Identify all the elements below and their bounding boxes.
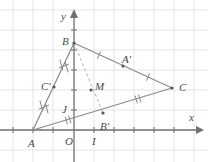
point-label-b-prime: B' <box>100 121 109 132</box>
point-label-c: C <box>179 82 186 93</box>
median-line-bb' <box>74 43 103 113</box>
x-axis-arrowhead <box>196 126 204 134</box>
geometry-figure: ABCA'B'C'M x y O I J <box>0 0 208 162</box>
point-label-a: A <box>28 138 35 149</box>
point-dot-c <box>170 86 173 89</box>
point-label-c-prime: C' <box>41 81 51 92</box>
origin-label: O <box>65 136 73 147</box>
tick-ab-lower <box>36 101 51 114</box>
y-axis-label: y <box>61 11 66 22</box>
x-axis-label: x <box>189 112 194 123</box>
point-markers <box>52 41 173 114</box>
point-dot-m <box>89 88 92 91</box>
point-dot-b <box>72 41 75 44</box>
tick-stroke <box>56 60 66 70</box>
point-label-m: M <box>95 81 104 92</box>
point-label-a-prime: A' <box>122 54 131 65</box>
tick-stroke <box>62 62 72 72</box>
tick-ab-upper <box>56 60 71 73</box>
point-dot-b-prime <box>101 111 104 114</box>
point-dot-c-prime <box>52 85 55 88</box>
median-segment-bb-prime <box>74 43 103 113</box>
point-label-b: B <box>62 36 69 47</box>
tick-ac-right <box>135 95 141 104</box>
unit-x-label: I <box>92 136 96 147</box>
unit-y-label: J <box>62 104 67 115</box>
